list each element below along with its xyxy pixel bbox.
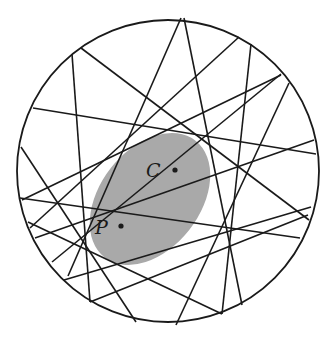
point-p-label: P bbox=[94, 216, 109, 238]
chord-line bbox=[222, 44, 251, 314]
tangent-chords-diagram: CP bbox=[0, 0, 334, 340]
point-c-dot bbox=[172, 167, 177, 172]
point-p-dot bbox=[118, 223, 123, 228]
point-c-label: C bbox=[146, 159, 161, 181]
chord-line bbox=[72, 54, 90, 302]
